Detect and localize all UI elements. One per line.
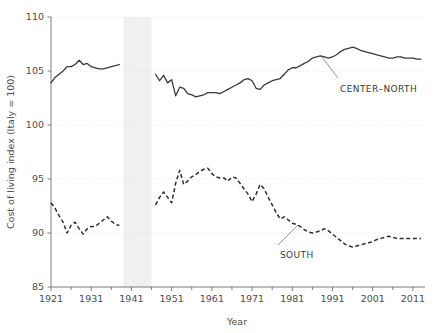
x-tick-label-1921: 1921: [39, 293, 63, 304]
y-axis-title: Cost of living index (Italy = 100): [5, 75, 16, 229]
x-tick-label-1931: 1931: [79, 293, 103, 304]
x-tick-label-1961: 1961: [200, 293, 224, 304]
y-tick-label-105: 105: [26, 65, 44, 76]
x-tick-label-2001: 2001: [361, 293, 385, 304]
y-tick-label-85: 85: [32, 281, 44, 292]
y-tick-label-95: 95: [32, 173, 44, 184]
x-tick-label-1951: 1951: [160, 293, 184, 304]
chart-background: [0, 0, 435, 333]
y-tick-label-100: 100: [26, 119, 44, 130]
x-tick-label-1991: 1991: [320, 293, 344, 304]
series-label-south: SOUTH: [280, 250, 314, 260]
line-chart: 859095100105110 192119311941195119611971…: [0, 0, 435, 333]
war-gap-shaded-band: [123, 17, 151, 287]
x-tick-label-1941: 1941: [119, 293, 143, 304]
y-tick-label-110: 110: [26, 11, 44, 22]
x-axis-title: Year: [226, 316, 247, 327]
chart-container: 859095100105110 192119311941195119611971…: [0, 0, 435, 333]
x-tick-label-2011: 2011: [401, 293, 425, 304]
y-tick-label-90: 90: [32, 227, 44, 238]
x-tick-label-1971: 1971: [240, 293, 264, 304]
war-gap-rect: [123, 17, 151, 287]
series-label-center-north: CENTER–NORTH: [340, 84, 417, 94]
x-tick-label-1981: 1981: [280, 293, 304, 304]
